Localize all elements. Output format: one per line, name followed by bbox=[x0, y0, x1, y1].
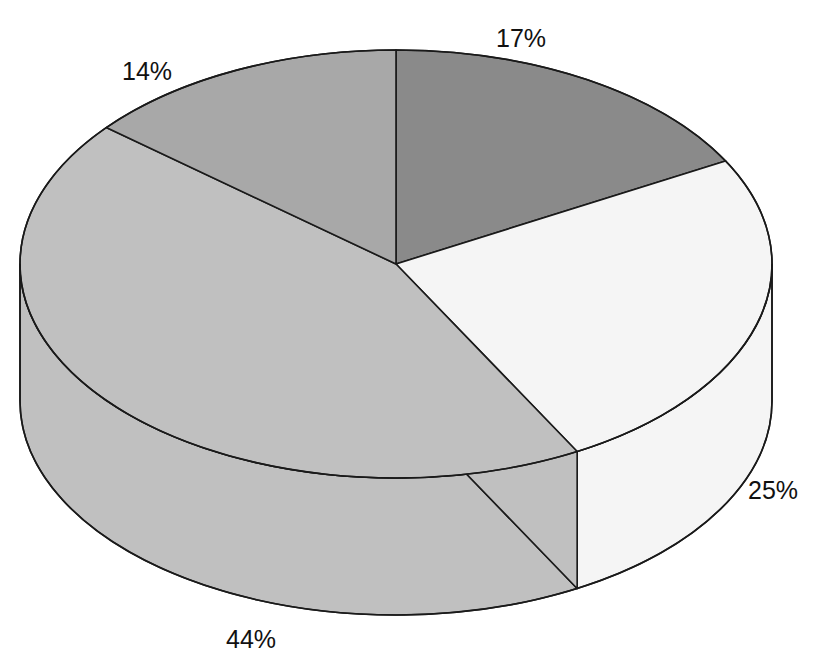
pie-slice-label-17: 17% bbox=[496, 26, 546, 51]
pie-slice-label-25: 25% bbox=[748, 478, 798, 503]
pie-slice-label-14: 14% bbox=[122, 59, 172, 84]
pie-chart-graphic bbox=[0, 0, 823, 671]
pie-slice-label-44: 44% bbox=[226, 627, 276, 652]
pie-chart-figure: 17% 25% 44% 14% bbox=[0, 0, 823, 671]
